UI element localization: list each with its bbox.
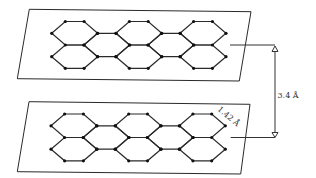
carbon-atom [96,32,99,35]
carbon-atom [178,148,181,151]
carbon-atom [146,159,149,162]
carbon-atom [179,32,182,35]
carbon-atom [192,136,195,139]
carbon-atom [192,67,195,70]
carbon-atom [178,124,181,127]
carbon-atom [210,159,213,162]
carbon-atom [224,55,227,58]
carbon-atom [127,112,130,115]
carbon-atom [160,55,163,58]
carbon-atom [146,112,149,115]
carbon-atom [82,159,85,162]
graphene-sheets [17,9,251,174]
carbon-atom [115,55,118,58]
carbon-atom [63,159,66,162]
carbon-atom [64,43,67,46]
carbon-atom [146,43,149,46]
carbon-atom [82,43,85,46]
carbon-atom [224,32,227,35]
carbon-atom [128,43,131,46]
carbon-atom [82,136,85,139]
carbon-atom [115,32,118,35]
upper-graphene-sheet [17,9,251,81]
carbon-atom [128,20,131,23]
carbon-atom [64,67,67,70]
carbon-atom [192,43,195,46]
bilayer-graphene-diagram: 3.4 Å 1.42 Å [0,0,316,178]
carbon-atom [147,20,150,23]
carbon-atom [64,20,67,23]
carbon-atom [49,124,52,127]
carbon-atom [211,20,214,23]
carbon-atom [63,112,66,115]
carbon-atom [224,124,227,127]
carbon-atom [49,148,52,151]
carbon-atom [179,55,182,58]
arrow-up-icon [272,46,278,52]
carbon-atom [114,148,117,151]
carbon-atom [128,67,131,70]
carbon-atom [159,148,162,151]
carbon-atom [159,124,162,127]
carbon-atom [211,67,214,70]
carbon-atom [191,159,194,162]
carbon-atom [146,136,149,139]
carbon-atom [147,67,150,70]
carbon-atom [127,159,130,162]
carbon-atom [210,112,213,115]
carbon-atom [128,136,131,139]
carbon-atom [82,112,85,115]
carbon-atom [50,32,53,35]
carbon-atom [95,124,98,127]
carbon-atom [210,136,213,139]
carbon-atom [192,20,195,23]
arrow-down-icon [272,133,278,138]
carbon-atom [50,55,53,58]
interlayer-spacing-label: 3.4 Å [278,91,299,100]
carbon-atom [83,20,86,23]
carbon-atom [224,148,227,151]
carbon-atom [83,67,86,70]
carbon-atom [114,124,117,127]
lower-graphene-sheet [17,102,250,174]
carbon-atom [211,43,214,46]
carbon-atom [191,112,194,115]
carbon-atom [96,55,99,58]
carbon-atom [63,136,66,139]
carbon-atom [95,148,98,151]
carbon-atom [160,32,163,35]
